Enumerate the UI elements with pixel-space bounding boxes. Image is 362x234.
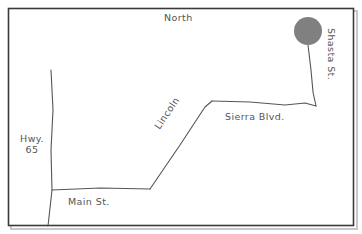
label-hwy-65-line2: 65 [17, 144, 47, 155]
label-sierra-blvd: Sierra Blvd. [225, 111, 285, 122]
label-hwy-65-line1: Hwy. [20, 133, 44, 144]
map-canvas [0, 0, 362, 234]
label-hwy-65: Hwy. 65 [17, 133, 47, 155]
label-shasta-street: Shasta St. [326, 28, 337, 80]
map-figure: North Hwy. 65 Main St. Lincoln Sierra Bl… [0, 0, 362, 234]
label-north: North [164, 12, 193, 23]
location-marker-icon [294, 17, 322, 45]
label-main-street: Main St. [68, 196, 110, 207]
